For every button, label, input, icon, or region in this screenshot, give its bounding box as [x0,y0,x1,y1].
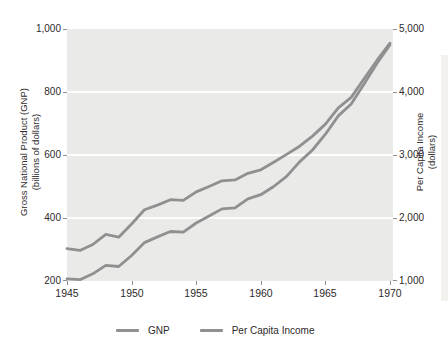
chart-plot-area [67,29,393,281]
right-axis-title-line1: Per Capita Income [414,113,426,192]
left-axis-title-line2: (billions of dollars) [30,88,42,216]
x-tickmark [325,281,326,285]
chart-lines [67,29,393,281]
left-tickmark [63,92,67,93]
x-tickmark [390,281,391,285]
legend-item-gnp: GNP [116,324,170,337]
x-axis-tick-1960: 1960 [239,287,283,299]
left-axis-tick-200: 200 [44,275,61,287]
left-axis-tick-800: 800 [44,86,61,98]
left-tickmark [63,218,67,219]
legend-item-per-capita-income: Per Capita Income [200,324,315,337]
right-axis-title: Per Capita Income (dollars) [414,113,438,192]
x-tickmark [196,281,197,285]
left-axis-tick-600: 600 [44,149,61,161]
x-tickmark [132,281,133,285]
right-axis-tick-2000: 2,000 [399,212,424,224]
page-edge-artifact [441,55,448,301]
right-tickmark [393,29,397,30]
right-tickmark [393,218,397,219]
right-axis-tick-5000: 5,000 [399,23,424,35]
right-axis-tick-4000: 4,000 [399,86,424,98]
left-tickmark [63,280,67,281]
legend-label-per-capita-income: Per Capita Income [232,324,315,337]
x-axis-tick-1950: 1950 [110,287,154,299]
x-tickmark [67,281,68,285]
x-axis-tick-1965: 1965 [303,287,347,299]
right-tickmark [393,280,397,281]
per-capita-income-line [67,43,390,250]
x-tickmark [261,281,262,285]
right-axis-tick-1000: 1,000 [399,275,424,287]
right-tickmark [393,155,397,156]
per-capita-income-line-swatch [200,329,223,332]
x-axis-tick-1955: 1955 [174,287,218,299]
gnp-line-swatch [116,329,139,332]
legend-label-gnp: GNP [148,324,170,337]
right-axis-title-line2: (dollars) [426,113,438,192]
left-tickmark [63,29,67,30]
gnp-per-capita-income-chart: 1,000 800 600 400 200 5,000 4,000 3,000 … [0,0,448,351]
right-tickmark [393,92,397,93]
left-axis-title-line1: Gross National Product (GNP) [18,88,30,216]
gnp-line [67,45,390,280]
left-tickmark [63,155,67,156]
x-axis-tick-1945: 1945 [45,287,89,299]
left-axis-title: Gross National Product (GNP) (billions o… [18,88,42,216]
left-axis-tick-1000: 1,000 [36,23,61,35]
chart-legend: GNP Per Capita Income [116,324,315,337]
left-axis-tick-400: 400 [44,212,61,224]
x-axis-tick-1970: 1970 [368,287,412,299]
